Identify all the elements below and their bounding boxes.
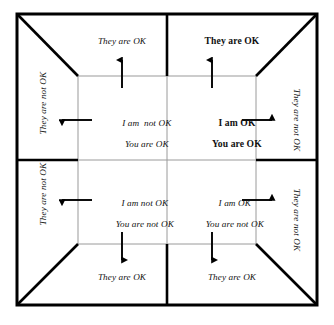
- quadrant-upper-left: I am not OK You are OK: [90, 108, 194, 159]
- quadrant-lower-right: I am OK You are not OK: [178, 188, 282, 239]
- quadrant-lower-left: I am not OK You are not OK: [88, 188, 192, 239]
- quadrant-upper-right: I am OK You are OK: [180, 107, 284, 161]
- quadrant-upper-right-line1: I am OK: [219, 117, 256, 128]
- ok-corral-diagram: They are OK They are OK They are OK They…: [0, 0, 334, 325]
- quadrant-lower-right-line1: I am OK: [219, 198, 251, 208]
- outer-label-right-lower: They are not OK: [292, 166, 302, 274]
- quadrant-upper-left-line1: I am not OK: [122, 118, 171, 128]
- outer-label-bottom-right: They are OK: [177, 272, 287, 282]
- outer-label-top-left: They are OK: [67, 36, 177, 46]
- quadrant-lower-right-line2: You are not OK: [206, 219, 264, 229]
- quadrant-lower-left-line2: You are not OK: [116, 219, 174, 229]
- outer-label-top-right: They are OK: [177, 36, 287, 47]
- outer-label-left-lower: They are not OK: [38, 140, 48, 248]
- quadrant-lower-left-line1: I am not OK: [121, 198, 168, 208]
- quadrant-upper-left-line2: You are OK: [125, 139, 169, 149]
- outer-label-right-upper: They are not OK: [292, 66, 302, 174]
- quadrant-upper-right-line2: You are OK: [212, 138, 262, 149]
- outer-label-bottom-left: They are OK: [67, 272, 177, 282]
